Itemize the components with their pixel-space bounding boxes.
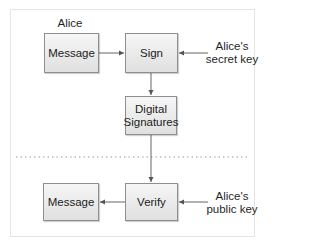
message-top-label: Message: [48, 47, 95, 60]
sign-label: Sign: [140, 47, 163, 60]
secret-key-label: Alice's secret key: [203, 40, 261, 66]
public-key-line1: Alice's: [203, 190, 261, 203]
verify-box: Verify: [125, 183, 178, 221]
message-bottom-label: Message: [48, 196, 95, 209]
digital-signatures-line1: Digital: [135, 103, 167, 116]
actor-label: Alice: [50, 17, 90, 30]
digital-signatures-line2: Signatures: [124, 116, 179, 129]
secret-key-line2: secret key: [203, 53, 261, 66]
secret-key-line1: Alice's: [203, 40, 261, 53]
public-key-label: Alice's public key: [203, 190, 261, 216]
sign-box: Sign: [125, 33, 178, 73]
digital-signatures-box: Digital Signatures: [125, 96, 177, 135]
message-box-bottom: Message: [43, 183, 99, 221]
message-box-top: Message: [44, 33, 99, 73]
verify-label: Verify: [137, 196, 166, 209]
public-key-line2: public key: [203, 203, 261, 216]
